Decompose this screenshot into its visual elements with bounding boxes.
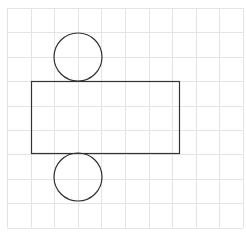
net-rectangle [32, 82, 180, 154]
cylinder-net-diagram [0, 0, 246, 238]
grid [7, 8, 244, 229]
